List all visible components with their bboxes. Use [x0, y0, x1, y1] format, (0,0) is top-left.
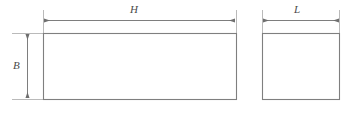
dimension-label-L: L: [294, 4, 300, 15]
dimension-drawing: H L B: [0, 0, 354, 115]
object-outlines: [44, 34, 340, 100]
front-view-rectangle: [44, 34, 237, 100]
side-view-rectangle: [263, 34, 340, 100]
dimension-label-H: H: [130, 4, 138, 15]
drawing-canvas: [0, 0, 354, 115]
dimension-label-B: B: [13, 60, 20, 71]
extension-lines: [12, 10, 340, 100]
dimension-lines: [28, 21, 340, 99]
